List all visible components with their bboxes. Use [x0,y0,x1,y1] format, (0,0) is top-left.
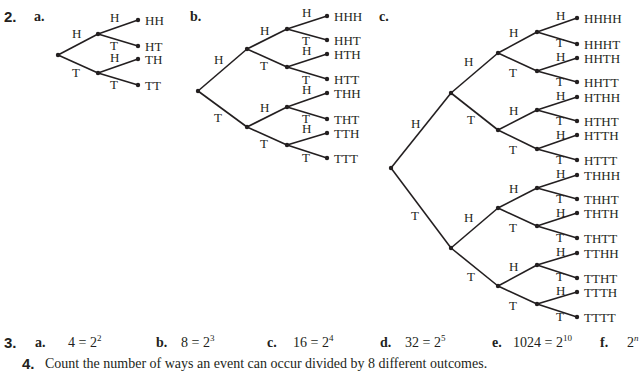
node-dot [136,57,140,61]
node-dot [389,166,393,170]
tree-b: HTHTHTHTHTHTHTHHHHHTHTHHTTTHHTHTTTHTTT [196,5,362,166]
node-dot [449,246,453,250]
node-dot [575,16,579,20]
branch-label: H [214,52,223,67]
outcome-label: HHTT [584,75,619,90]
branch-label: T [556,35,564,50]
node-dot [496,51,500,55]
branch-label: T [556,113,564,128]
outcome-label: HH [145,13,164,28]
branch-T-TT [98,73,138,85]
outcome-label: TTTH [584,285,617,300]
branch-label: H [556,8,565,23]
branch-label: T [509,298,517,313]
node-dot [496,284,500,288]
node-dot [496,206,500,210]
problem-2c-label: c. [379,10,389,24]
node-dot [285,65,289,69]
node-dot [575,173,579,177]
branch-label: H [556,88,565,103]
problem-4-text: Count the number of ways an event can oc… [45,357,487,371]
node-dot [535,147,539,151]
node-dot [325,77,329,81]
problem-2-number: 2. [4,9,17,24]
branch-HH-HHT [498,53,537,71]
branch-label: H [509,25,518,40]
branch-label: T [260,136,268,151]
branch-H-HH [451,53,498,93]
node-dot [535,69,539,73]
branch-label: H [464,210,473,225]
outcome-label: TTT [334,151,358,166]
outcome-label: THTT [584,231,617,246]
branch-label: T [302,150,310,165]
answer-d-value: 32 = 25 [405,336,445,350]
node-dot [136,83,140,87]
node-dot [575,80,579,84]
branch-label: T [556,230,564,245]
node-dot [575,56,579,60]
branch-label: H [110,10,119,25]
answer-a-label: a. [35,336,46,350]
outcome-label: HTT [334,72,359,87]
node-dot [575,119,579,123]
answer-e-value: 1024 = 210 [513,336,572,350]
answer-c-label: c. [267,336,277,350]
answer-b-label: b. [156,336,167,350]
outcome-label: HTH [334,47,361,62]
branch-H-HT [98,34,138,46]
branch-label: H [302,43,311,58]
tree-a: HTHTHTHHHTTHTT [56,10,164,93]
answer-e-label: e. [492,336,502,350]
node-dot [96,71,100,75]
branch-label: T [556,191,564,206]
outcome-label: HHHT [584,37,620,52]
outcome-label: THH [334,86,361,101]
outcome-label: HTTH [584,128,619,143]
outcome-label: THHH [584,168,620,183]
branch-label: H [556,166,565,181]
outcome-label: HHTH [584,51,620,66]
node-dot [285,143,289,147]
problem-4-number: 4. [22,356,35,371]
branch-r-T [198,91,247,127]
node-dot [449,91,453,95]
node-dot [535,302,539,306]
node-dot [575,236,579,240]
node-dot [575,158,579,162]
branch-label: T [509,142,517,157]
node-dot [325,91,329,95]
outcome-label: TH [145,52,162,67]
branch-label: H [302,5,311,20]
outcome-label: HTTT [584,153,617,168]
node-dot [245,125,249,129]
node-dot [56,53,60,57]
node-dot [535,30,539,34]
problem-3-number: 3. [4,335,17,350]
branch-label: H [556,205,565,220]
problem-2b-label: b. [190,10,201,24]
branch-label: T [556,309,564,324]
branch-label: T [467,112,475,127]
branch-label: H [509,259,518,274]
branch-label: T [556,152,564,167]
outcome-label: HHHH [584,11,622,26]
problem-2a-label: a. [34,10,45,24]
branch-label: T [72,65,80,80]
outcome-label: HHT [334,33,361,48]
branch-label: H [260,23,269,38]
node-dot [535,224,539,228]
node-dot [575,290,579,294]
branch-label: H [464,54,473,69]
branch-label: H [72,26,81,41]
branch-label: T [509,65,517,80]
node-dot [245,47,249,51]
branch-label: T [260,58,268,73]
node-dot [325,52,329,56]
outcome-label: THHT [584,192,619,207]
branch-label: T [110,77,118,92]
branch-label: T [411,208,419,223]
node-dot [325,38,329,42]
node-dot [575,211,579,215]
